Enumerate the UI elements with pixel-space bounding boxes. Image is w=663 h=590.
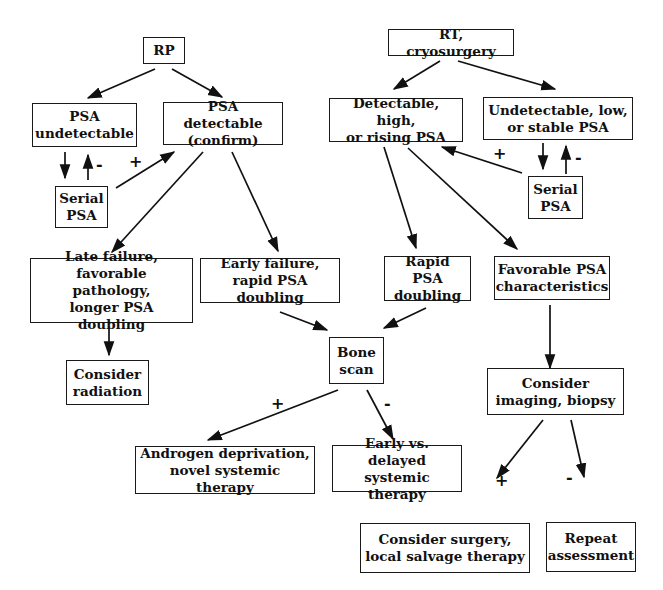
node-rt-cryosurgery: RT, cryosurgery bbox=[388, 29, 514, 56]
node-late-failure: Late failure, favorable pathology, longe… bbox=[30, 258, 193, 323]
node-androgen-deprivation: Androgen deprivation, novel systemic the… bbox=[135, 446, 315, 494]
node-early-failure: Early failure, rapid PSA doubling bbox=[200, 258, 340, 303]
node-serial-psa-right: Serial PSA bbox=[528, 176, 583, 219]
node-consider-surgery: Consider surgery, local salvage therapy bbox=[360, 523, 530, 573]
edge-label-imaging-plus: + bbox=[495, 473, 508, 489]
node-psa-undetectable: PSA undetectable bbox=[32, 103, 137, 147]
node-detectable-high-rising: Detectable, high, or rising PSA bbox=[329, 98, 463, 142]
node-undetectable-low-stable: Undetectable, low, or stable PSA bbox=[483, 97, 633, 140]
edge-label-bone-plus: + bbox=[271, 396, 284, 412]
edge-label-right-plus: + bbox=[493, 146, 506, 162]
edge-label-left-plus: + bbox=[129, 154, 142, 170]
flowchart-canvas: RP RT, cryosurgery PSA undetectable PSA … bbox=[0, 0, 663, 590]
node-early-vs-delayed: Early vs. delayed systemic therapy bbox=[332, 445, 462, 492]
node-favorable-psa: Favorable PSA characteristics bbox=[494, 256, 610, 300]
edge-label-left-minus: - bbox=[96, 157, 103, 173]
node-consider-radiation: Consider radiation bbox=[66, 360, 149, 405]
node-psa-detectable: PSA detectable (confirm) bbox=[163, 102, 283, 145]
edge-label-bone-minus: - bbox=[384, 396, 391, 412]
node-serial-psa-left: Serial PSA bbox=[55, 186, 108, 228]
node-consider-imaging-biopsy: Consider imaging, biopsy bbox=[487, 368, 624, 415]
node-rapid-psa-doubling: Rapid PSA doubling bbox=[384, 256, 471, 301]
node-repeat-assessment: Repeat assessment bbox=[546, 522, 636, 572]
node-bone-scan: Bone scan bbox=[329, 337, 384, 384]
node-rp: RP bbox=[143, 37, 185, 64]
edge-label-imaging-minus: - bbox=[566, 470, 573, 486]
edge-label-right-minus: - bbox=[575, 150, 582, 166]
